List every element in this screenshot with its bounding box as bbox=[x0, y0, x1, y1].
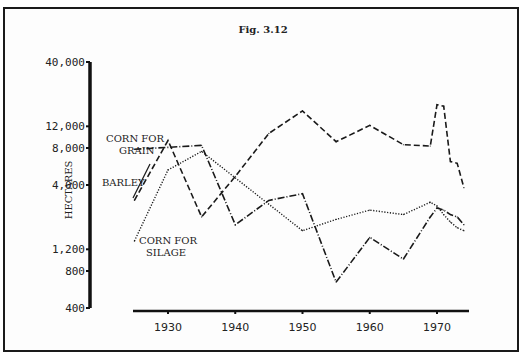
data-point bbox=[450, 221, 451, 222]
line-chart: Fig. 3.12 HECTARES 4008001,2004,0008,000… bbox=[0, 0, 526, 360]
data-point bbox=[463, 187, 464, 188]
y-tick-label: 40,000 bbox=[45, 56, 85, 69]
chart-title: Fig. 3.12 bbox=[238, 24, 287, 35]
y-tick-label: 800 bbox=[65, 265, 85, 278]
x-tick-label: 1940 bbox=[221, 321, 249, 334]
data-point bbox=[268, 200, 269, 201]
series-label-corn-for-silage: SILAGE bbox=[146, 247, 186, 258]
x-tick-label: 1930 bbox=[154, 321, 182, 334]
data-point bbox=[167, 169, 168, 170]
y-tick-label: 400 bbox=[65, 302, 85, 315]
data-point bbox=[403, 258, 404, 259]
y-tick-label: 4,000 bbox=[52, 179, 85, 192]
series-label-corn-for-silage: CORN FOR bbox=[139, 235, 197, 246]
y-tick-label: 1,200 bbox=[52, 243, 85, 256]
data-point bbox=[201, 151, 202, 152]
data-point bbox=[457, 163, 458, 164]
data-point bbox=[369, 237, 370, 238]
x-tick-label: 1950 bbox=[289, 321, 317, 334]
data-point bbox=[450, 214, 451, 215]
data-point bbox=[369, 125, 370, 126]
data-point bbox=[369, 210, 370, 211]
data-point bbox=[201, 216, 202, 217]
data-point bbox=[430, 216, 431, 217]
data-point bbox=[336, 219, 337, 220]
series-label-corn-for-grain: CORN FOR bbox=[106, 133, 164, 144]
data-point bbox=[235, 176, 236, 177]
data-point bbox=[443, 210, 444, 211]
data-point bbox=[436, 207, 437, 208]
series-line-corn-for-silage bbox=[134, 151, 464, 241]
data-point bbox=[235, 224, 236, 225]
data-point bbox=[443, 106, 444, 107]
series-line-barley bbox=[134, 105, 464, 217]
data-point bbox=[463, 230, 464, 231]
data-point bbox=[403, 144, 404, 145]
data-point bbox=[450, 161, 451, 162]
data-point bbox=[403, 214, 404, 215]
data-point bbox=[167, 140, 168, 141]
data-point bbox=[268, 133, 269, 134]
data-point bbox=[436, 104, 437, 105]
data-point bbox=[134, 200, 135, 201]
x-tick-label: 1960 bbox=[356, 321, 384, 334]
series-label-corn-for-grain: GRAIN bbox=[119, 145, 155, 156]
data-point bbox=[443, 214, 444, 215]
data-point bbox=[336, 281, 337, 282]
data-point bbox=[436, 205, 437, 206]
series-barley bbox=[134, 104, 465, 217]
series-line-corn-for-grain bbox=[134, 145, 464, 282]
data-point bbox=[302, 110, 303, 111]
y-tick-label: 8,000 bbox=[52, 142, 85, 155]
data-point bbox=[302, 193, 303, 194]
data-point bbox=[302, 230, 303, 231]
data-point bbox=[457, 227, 458, 228]
y-tick-label: 12,000 bbox=[45, 120, 85, 133]
data-point bbox=[430, 202, 431, 203]
series-corn-for-grain bbox=[134, 145, 465, 283]
data-point bbox=[430, 145, 431, 146]
data-point bbox=[457, 216, 458, 217]
data-point bbox=[336, 141, 337, 142]
data-point bbox=[201, 145, 202, 146]
data-point bbox=[134, 240, 135, 241]
series-corn-for-silage bbox=[134, 151, 465, 242]
data-point bbox=[463, 224, 464, 225]
x-tick-label: 1970 bbox=[423, 321, 451, 334]
